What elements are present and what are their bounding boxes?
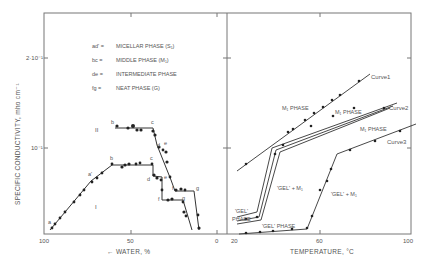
svg-text:de =: de = — [92, 71, 103, 77]
x-tick-60: 60 — [316, 238, 323, 244]
curve-I — [50, 165, 192, 230]
svg-text:b: b — [111, 119, 114, 125]
svg-text:b: b — [110, 155, 113, 161]
svg-text:Curve3: Curve3 — [387, 139, 407, 145]
left-data-markers — [51, 124, 201, 230]
svg-text:a': a' — [88, 171, 92, 177]
svg-text:f: f — [158, 196, 160, 202]
x-axis-label-water: ← WATER, % — [107, 248, 150, 255]
svg-text:'GEL' + M₁: 'GEL' + M₁ — [277, 185, 303, 191]
svg-text:'GEL' PHASE: 'GEL' PHASE — [262, 223, 296, 229]
svg-text:Curve2: Curve2 — [389, 105, 409, 111]
svg-text:INTERMEDIATE PHASE: INTERMEDIATE PHASE — [116, 71, 177, 77]
svg-text:PHASE: PHASE — [232, 216, 251, 222]
svg-text:c: c — [151, 119, 154, 125]
svg-text:ad' =: ad' = — [92, 43, 104, 49]
conductivity-figure: 2·10⁻¹ 10⁻¹ 100 50 0 ← WATER, % SPECIFIC… — [0, 0, 428, 264]
x-tick-100: 100 — [39, 238, 50, 244]
svg-text:M₁ PHASE: M₁ PHASE — [282, 105, 309, 111]
svg-text:Curve1: Curve1 — [371, 74, 391, 80]
svg-text:NEAT PHASE (G): NEAT PHASE (G) — [116, 85, 160, 91]
y-axis-label: SPECIFIC CONDUCTIVITY, mho cm⁻¹ — [14, 83, 21, 205]
svg-text:d: d — [147, 176, 150, 182]
svg-text:g: g — [196, 185, 199, 191]
legend: ad' = MICELLAR PHASE (S₁) bc = MIDDLE PH… — [92, 43, 177, 91]
curve-2 — [237, 103, 397, 224]
right-data-markers — [245, 80, 402, 235]
svg-text:fg =: fg = — [92, 85, 101, 91]
svg-text:bc =: bc = — [92, 57, 103, 63]
svg-text:g: g — [182, 195, 185, 201]
svg-text:a: a — [48, 219, 52, 225]
svg-text:'GEL': 'GEL' — [235, 208, 248, 214]
curve-label-II: II — [95, 127, 99, 133]
svg-text:e: e — [164, 140, 167, 146]
x-axis-label-temperature: TEMPERATURE, °C — [290, 248, 354, 255]
svg-text:MICELLAR PHASE (S₁): MICELLAR PHASE (S₁) — [116, 43, 175, 49]
x-tick-100-temp: 100 — [403, 238, 414, 244]
x-tick-20: 20 — [231, 238, 238, 244]
svg-text:'GEL' + M₁: 'GEL' + M₁ — [331, 191, 357, 197]
x-tick-0: 0 — [215, 238, 219, 244]
svg-text:M₁ PHASE: M₁ PHASE — [360, 126, 387, 132]
svg-text:MIDDLE PHASE (M₁): MIDDLE PHASE (M₁) — [116, 57, 169, 63]
y-tick-mid: 10⁻¹ — [31, 145, 43, 151]
left-point-labels: a a' b c d e f g b c d e f g II I — [48, 119, 199, 225]
svg-text:d: d — [157, 142, 160, 148]
curve-label-I: I — [95, 204, 97, 210]
svg-text:M₁ PHASE: M₁ PHASE — [335, 109, 362, 115]
x-tick-50: 50 — [127, 238, 134, 244]
y-tick-top: 2·10⁻¹ — [26, 55, 43, 61]
svg-text:e: e — [164, 174, 167, 180]
svg-text:c: c — [150, 155, 153, 161]
